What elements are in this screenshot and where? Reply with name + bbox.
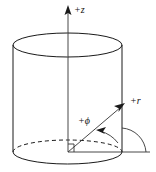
bottom-rim-front — [13, 152, 122, 164]
r-axis-arrowhead — [114, 103, 125, 112]
phi-angle-label: +ϕ — [78, 115, 90, 126]
cylindrical-coordinate-diagram: +z +r +ϕ — [0, 0, 156, 172]
cylinder-body — [13, 45, 122, 152]
z-axis-label: +z — [74, 4, 85, 15]
right-side-quarter-arc — [122, 128, 146, 152]
r-axis-label: +r — [130, 95, 141, 106]
diagram-canvas: +z +r +ϕ — [0, 0, 156, 172]
top-rim-ellipse — [13, 33, 122, 57]
bottom-rim-back — [13, 140, 122, 152]
r-axis-ray — [68, 107, 121, 152]
